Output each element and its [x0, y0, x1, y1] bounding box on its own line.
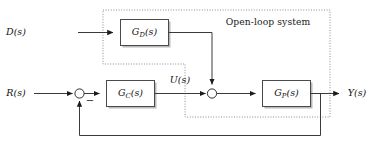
sum-junction-error[interactable]: [75, 89, 84, 98]
label-control-signal: U(s): [170, 75, 190, 85]
label-output-signal: Y(s): [348, 88, 367, 98]
gc-subscript: C: [126, 92, 131, 100]
diagram-canvas: [0, 0, 374, 145]
sum-junction-disturbance[interactable]: [207, 89, 216, 98]
gc-block-label: GC(s): [118, 88, 143, 98]
gp-subscript: P: [282, 92, 287, 100]
label-feedback-minus-sign: −: [86, 96, 94, 106]
label-reference-signal: R(s): [6, 88, 25, 98]
gd-subscript: D: [139, 31, 144, 39]
label-disturbance-signal: D(s): [6, 27, 26, 37]
gp-block-label: GP(s): [274, 88, 298, 98]
open-loop-boundary-label: Open-loop system: [226, 17, 311, 26]
block-diagram: D(s) R(s) U(s) Y(s) − GD(s) GC(s) GP(s) …: [0, 0, 374, 145]
gd-block-label: GD(s): [132, 27, 157, 37]
